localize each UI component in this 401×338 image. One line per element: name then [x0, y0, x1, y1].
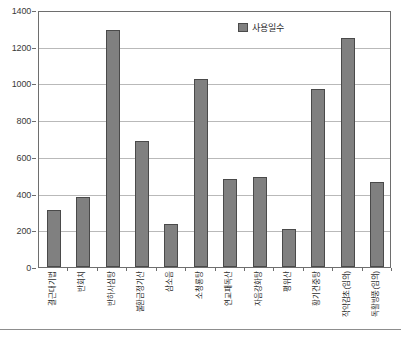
bar — [164, 224, 178, 267]
y-tick-label: 1200 — [12, 43, 31, 53]
x-axis-label-slot: 소청룡탕 — [193, 271, 207, 327]
y-tick-label: 400 — [17, 190, 31, 200]
bar — [223, 179, 237, 267]
y-tick-label: 600 — [17, 153, 31, 163]
x-axis-label-slot: 황기건중탕 — [310, 271, 324, 327]
bar — [76, 197, 90, 267]
bar — [370, 182, 384, 267]
x-axis-label: 반하사심탕 — [108, 271, 116, 306]
x-axis-labels: 결근대기법반회치반하사심탕불환금정기산삼소음소청룡탕연교패독산자음강화탕평위산황… — [0, 271, 401, 329]
x-axis-label-slot: 연교패독산 — [222, 271, 236, 327]
bar — [106, 30, 120, 267]
y-tick-label: 800 — [17, 116, 31, 126]
x-axis-label: 결근대기법 — [49, 271, 57, 306]
x-axis-label-slot: 반하사심탕 — [105, 271, 119, 327]
x-axis-label-slot: 작약감초(임의) — [340, 271, 354, 327]
x-axis-label-slot: 불환금정기산 — [134, 271, 148, 327]
x-axis-label: 평위산 — [284, 271, 292, 292]
x-axis-label-slot: 평위산 — [281, 271, 295, 327]
x-axis-label-slot: 결근대기법 — [46, 271, 60, 327]
x-axis-label-slot: 반회치 — [75, 271, 89, 327]
y-tick-mark — [32, 48, 36, 49]
x-axis-label: 독활방풍(임의) — [372, 271, 380, 317]
y-tick-mark — [32, 231, 36, 232]
legend-label: 사용일수 — [252, 21, 284, 34]
y-tick-mark — [32, 158, 36, 159]
bar — [253, 177, 267, 267]
x-axis-label: 반회치 — [78, 271, 86, 292]
bar — [341, 38, 355, 267]
bar — [135, 141, 149, 267]
x-axis-label: 작약감초(임의) — [343, 271, 351, 317]
x-axis-label-slot: 자음강화탕 — [252, 271, 266, 327]
x-axis-label: 삼소음 — [166, 271, 174, 292]
x-axis-label: 불환금정기산 — [137, 271, 145, 312]
bar — [282, 229, 296, 267]
y-tick-label: 1400 — [12, 6, 31, 16]
bar — [47, 210, 61, 267]
x-axis-label: 소청룡탕 — [196, 271, 204, 299]
y-tick-mark — [32, 268, 36, 269]
plot-area — [38, 11, 391, 268]
y-tick-label: 1000 — [12, 79, 31, 89]
bars-group — [39, 12, 390, 267]
y-tick-mark — [32, 195, 36, 196]
y-axis: 0200400600800100012001400 — [0, 0, 36, 280]
x-axis-label-slot: 삼소음 — [163, 271, 177, 327]
y-tick-mark — [32, 121, 36, 122]
x-axis-label: 황기건중탕 — [313, 271, 321, 306]
x-axis-label: 연교패독산 — [225, 271, 233, 306]
chart-page: 0200400600800100012001400 결근대기법반회치반하사심탕불… — [0, 0, 401, 338]
x-axis-label-slot: 독활방풍(임의) — [369, 271, 383, 327]
y-tick-mark — [32, 11, 36, 12]
x-axis-label: 자음강화탕 — [255, 271, 263, 306]
bar — [194, 79, 208, 267]
page-bottom-rule — [0, 329, 401, 330]
chart-legend: 사용일수 — [238, 21, 284, 34]
y-tick-label: 200 — [17, 226, 31, 236]
bar — [311, 89, 325, 267]
y-tick-mark — [32, 84, 36, 85]
legend-swatch-icon — [238, 23, 248, 32]
